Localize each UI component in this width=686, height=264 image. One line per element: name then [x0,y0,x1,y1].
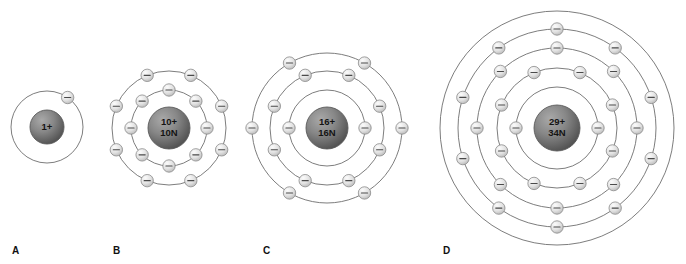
electron [246,122,258,134]
electron [471,122,483,134]
atom-diagram-figure: 1+10+10N16+16N29+34N ABCD [0,0,686,264]
electron [358,57,370,69]
electron [609,42,621,54]
electron [215,144,227,156]
electron [125,122,137,134]
electron [607,178,619,190]
panel-label-d: D [443,246,450,256]
panel-label-b: B [113,246,120,256]
electron [494,65,506,77]
panel-label-a: A [12,246,19,256]
nucleus-label-line: 16N [318,127,336,138]
electron [141,69,153,81]
electron [299,174,311,186]
electron [358,187,370,199]
nucleus-label-line: 10+ [161,116,178,127]
electron [645,91,657,103]
electron [493,202,505,214]
electron [190,149,202,161]
electron [283,122,295,134]
electron [607,65,619,77]
electron [528,66,540,78]
electron [551,23,563,35]
electron [215,100,227,112]
electron [528,177,540,189]
electron [609,202,621,214]
electron [551,202,563,214]
nucleus-label-line: 10N [160,127,178,138]
electron [574,177,586,189]
electron [343,174,355,186]
atom-a: 1+ [11,91,83,163]
electron [493,42,505,54]
electron [373,100,385,112]
electron [185,174,197,186]
electron [268,144,280,156]
electron [110,144,122,156]
electron [495,145,507,157]
nucleus-label-line: 34N [548,127,566,138]
electron [551,42,563,54]
electron [396,122,408,134]
electron [510,122,522,134]
electron [551,221,563,233]
electron [163,160,175,172]
electron [136,149,148,161]
electron [606,99,618,111]
nucleus-label-line: 29+ [549,116,566,127]
electron [163,84,175,96]
electron [185,69,197,81]
atom-diagram-canvas: 1+10+10N16+16N29+34N [0,0,686,264]
electron [110,100,122,112]
electron [606,145,618,157]
atom-b: 10+10N [110,69,228,187]
electron [141,174,153,186]
atom-d: 29+34N [440,11,674,245]
electron [457,91,469,103]
electron [343,69,355,81]
electron [494,178,506,190]
electron [201,122,213,134]
electron [190,95,202,107]
electron [373,144,385,156]
electron [592,122,604,134]
nucleus-label-line: 16+ [319,116,336,127]
electron [268,100,280,112]
electron [136,95,148,107]
electron [359,122,371,134]
panel-label-c: C [263,246,270,256]
electron [495,99,507,111]
electron [457,152,469,164]
atom-c: 16+16N [246,53,408,203]
electron [574,66,586,78]
electron [631,122,643,134]
electron [645,152,657,164]
electron [283,57,295,69]
electron [283,187,295,199]
electron [61,91,73,103]
electron [299,69,311,81]
nucleus-label-line: 1+ [42,121,53,132]
